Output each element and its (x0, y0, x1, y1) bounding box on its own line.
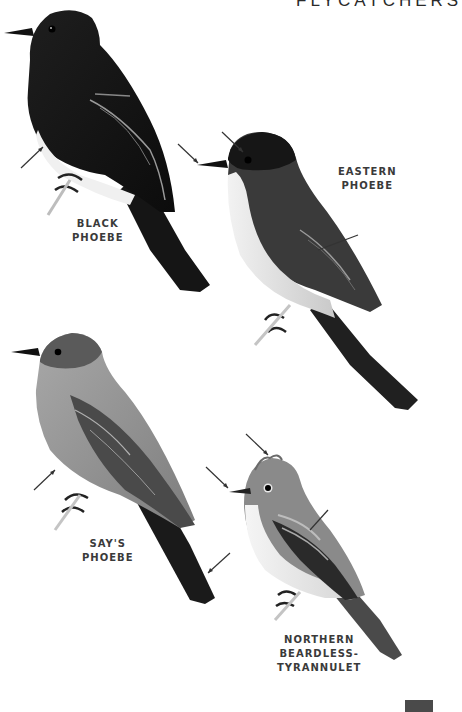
page-number-tab (405, 700, 433, 712)
label-line: PHOEBE (82, 551, 133, 565)
species-label-black-phoebe: BLACK PHOEBE (72, 217, 123, 245)
species-label-says-phoebe: SAY'S PHOEBE (82, 537, 133, 565)
species-label-eastern-phoebe: EASTERN PHOEBE (338, 165, 397, 193)
label-line: PHOEBE (72, 231, 123, 245)
label-line: EASTERN (338, 165, 397, 179)
label-line: BLACK (72, 217, 123, 231)
northern-beardless-tyrannulet-illustration (206, 434, 402, 660)
black-phoebe-illustration (4, 10, 210, 292)
label-line: BEARDLESS- (277, 647, 361, 661)
label-line: SAY'S (82, 537, 133, 551)
label-line: PHOEBE (338, 179, 397, 193)
label-line: NORTHERN (277, 633, 361, 647)
species-label-northern-beardless-tyrannulet: NORTHERN BEARDLESS- TYRANNULET (277, 633, 361, 675)
label-line: TYRANNULET (277, 661, 361, 675)
